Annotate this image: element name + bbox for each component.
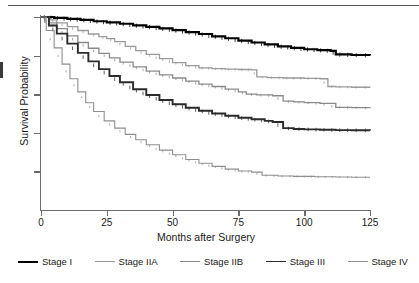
- y-axis-tick-2: [34, 94, 41, 95]
- legend-item-stage-iib[interactable]: Stage IIB: [180, 256, 243, 267]
- legend-label: Stage IIB: [204, 256, 243, 267]
- legend-label: Stage I: [42, 256, 72, 267]
- legend-label: Stage III: [290, 256, 325, 267]
- y-axis-title: Survival Probability: [18, 11, 30, 191]
- x-axis-tick-3: [238, 210, 239, 216]
- y-axis-tick-3: [34, 56, 41, 57]
- legend-item-stage-iii[interactable]: Stage III: [266, 256, 325, 267]
- x-axis-tick-label-4: 100: [296, 217, 313, 228]
- top-divider-rule: [8, 5, 419, 6]
- x-axis-tick-label-5: 125: [362, 217, 379, 228]
- curve-stage-iv: [41, 17, 370, 177]
- censor-marks-stage-iib: [45, 19, 365, 110]
- cropped-edge-artifact: [0, 62, 3, 78]
- legend-item-stage-iia[interactable]: Stage IIA: [95, 256, 158, 267]
- x-axis-tick-label-1: 25: [101, 217, 112, 228]
- survival-curves: [41, 17, 370, 210]
- x-axis-tick-label-2: 50: [167, 217, 178, 228]
- x-axis-tick-5: [370, 210, 371, 216]
- x-axis-tick-label-0: 0: [38, 217, 44, 228]
- y-axis-tick-4: [34, 17, 41, 18]
- x-axis-tick-label-3: 75: [233, 217, 244, 228]
- x-axis-tick-4: [304, 210, 305, 216]
- plot-area: [41, 17, 370, 210]
- legend-label: Stage IV: [372, 256, 408, 267]
- legend-label: Stage IIA: [119, 256, 158, 267]
- x-axis-tick-0: [41, 210, 42, 216]
- curve-stage-iib: [41, 17, 370, 108]
- censor-marks-stage-iv: [50, 38, 365, 178]
- x-axis-tick-2: [173, 210, 174, 216]
- x-axis-tick-1: [107, 210, 108, 216]
- survival-chart-figure: 0255075100125 Survival Probability Month…: [0, 0, 419, 283]
- censor-marks-stage-iii: [45, 19, 365, 132]
- legend-line-swatch: [18, 261, 38, 263]
- legend-item-stage-i[interactable]: Stage I: [18, 256, 72, 267]
- legend-line-swatch: [180, 261, 200, 262]
- y-axis-tick-1: [34, 133, 41, 134]
- chart-legend: Stage IStage IIAStage IIBStage IIIStage …: [18, 256, 408, 267]
- legend-line-swatch: [348, 261, 368, 262]
- legend-line-swatch: [95, 261, 115, 262]
- legend-line-swatch: [266, 261, 286, 262]
- legend-item-stage-iv[interactable]: Stage IV: [348, 256, 408, 267]
- y-axis-tick-0: [34, 171, 41, 172]
- x-axis-title: Months after Surgery: [41, 231, 371, 243]
